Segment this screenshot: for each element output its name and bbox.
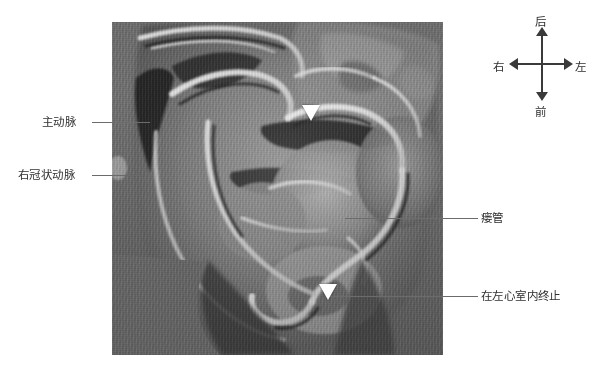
render-vignette: [112, 22, 443, 355]
leader-aorta: [92, 122, 150, 123]
compass-arrow-right-icon: [564, 58, 573, 70]
orientation-compass: 后 前 右 左: [497, 14, 589, 118]
ct-scan-image: [112, 22, 443, 355]
compass-arrow-left-icon: [509, 58, 518, 70]
compass-label-left: 左: [575, 58, 586, 74]
label-aorta: 主动脉: [42, 116, 76, 129]
fistula-origin-arrow-icon: [302, 105, 320, 121]
compass-horizontal-axis: [517, 63, 565, 65]
compass-label-anterior: 前: [535, 103, 546, 119]
label-termination: 在左心室内终止: [481, 290, 561, 303]
compass-label-right: 右: [493, 58, 504, 74]
label-right-coronary-artery: 右冠状动脉: [18, 169, 75, 182]
fistula-termination-arrow-icon: [319, 284, 337, 300]
leader-fistula: [345, 218, 478, 219]
label-fistula: 瘘管: [481, 212, 504, 225]
leader-right-coronary-artery: [92, 175, 140, 176]
compass-arrow-down-icon: [536, 92, 548, 101]
leader-termination: [330, 296, 478, 297]
compass-label-posterior: 后: [535, 13, 546, 29]
